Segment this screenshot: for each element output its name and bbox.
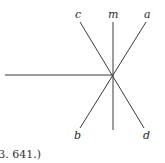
label-c: c [75,8,81,21]
label-m: m [108,8,118,21]
label-d: d [143,129,150,142]
label-a: a [144,8,151,21]
label-b: b [74,129,81,142]
line-diagram: c m a b d [0,0,165,163]
figure-caption: (3. 641.) [0,148,41,161]
diagram-figure: c m a b d (3. 641.) [0,0,165,163]
